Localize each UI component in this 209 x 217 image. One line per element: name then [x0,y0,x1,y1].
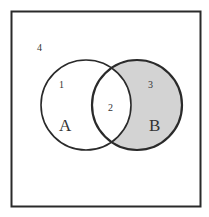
set-a-label: A [59,116,72,135]
set-b-label: B [149,116,160,135]
venn-diagram: 4 1 2 3 A B [0,0,209,217]
region-2-label: 2 [108,102,113,113]
region-3-label: 3 [148,79,153,90]
region-4-label: 4 [37,42,42,53]
region-1-label: 1 [59,79,64,90]
